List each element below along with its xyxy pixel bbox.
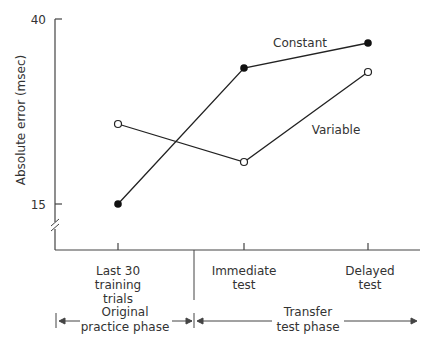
chart: 40 15 Absolute error (msec) Last 30 trai… [0,0,431,344]
ytick-15: 15 [31,198,46,212]
svg-text:practice phase: practice phase [81,320,170,334]
marker-variable [115,121,122,128]
label-variable: Variable [312,123,361,137]
svg-text:test: test [232,278,255,292]
svg-text:Transfer: Transfer [283,305,332,319]
y-axis-label: Absolute error (msec) [14,55,28,185]
xtick-delayed: Delayed test [345,264,394,292]
svg-text:Immediate: Immediate [212,264,277,278]
series-variable-line [118,72,368,162]
phase-transfer: Transfer test phase [276,305,339,334]
label-constant: Constant [273,36,327,50]
marker-constant [364,39,372,47]
svg-text:training: training [95,278,142,292]
marker-variable [241,159,248,166]
svg-text:Last 30: Last 30 [96,264,140,278]
svg-text:test: test [358,278,381,292]
marker-constant [114,200,122,208]
marker-constant [240,64,248,72]
svg-text:Original: Original [102,305,149,319]
svg-text:Delayed: Delayed [345,264,394,278]
ytick-40: 40 [31,13,46,27]
phase-original: Original practice phase [81,305,170,334]
marker-variable [365,69,372,76]
svg-text:test phase: test phase [276,320,339,334]
svg-text:trials: trials [103,292,133,306]
xtick-immediate: Immediate test [212,264,277,292]
xtick-last30: Last 30 training trials [95,264,142,306]
